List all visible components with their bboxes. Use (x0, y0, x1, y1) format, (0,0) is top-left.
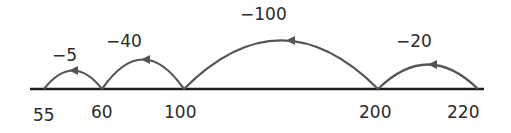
point-label-200: 200 (359, 102, 391, 122)
jump-label: −100 (240, 4, 287, 24)
jump-label: −40 (106, 31, 142, 51)
jump-arc-minus-5: −5 (44, 45, 102, 89)
arrow-left-icon (69, 66, 78, 75)
point-label-220: 220 (447, 102, 479, 122)
jump-label: −20 (396, 31, 432, 51)
number-line-diagram: −5 −40 −100 −20 55 60 100 200 220 (0, 0, 511, 133)
arrow-left-icon (141, 55, 150, 64)
jump-arc-minus-20: −20 (378, 31, 478, 89)
point-label-60: 60 (91, 102, 113, 122)
arrow-left-icon (286, 36, 295, 45)
jump-arc-minus-40: −40 (102, 31, 184, 89)
jump-label: −5 (52, 45, 77, 65)
arrow-left-icon (428, 60, 437, 69)
jump-arc-minus-100: −100 (184, 4, 378, 89)
point-label-100: 100 (164, 102, 196, 122)
point-label-55: 55 (33, 105, 55, 125)
